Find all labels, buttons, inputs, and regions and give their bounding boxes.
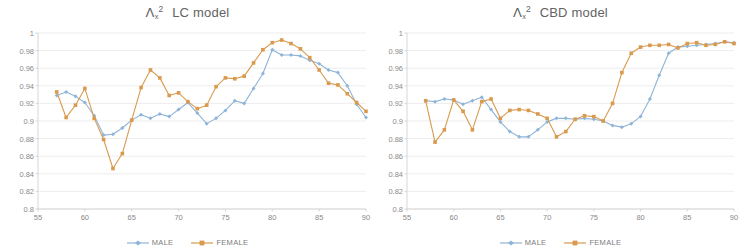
- y-axis-tick-label: 0.98: [388, 46, 403, 55]
- legend-item-female: FEMALE: [191, 238, 248, 247]
- y-axis-tick-label: 0.94: [19, 81, 34, 90]
- data-point-female: [345, 92, 349, 96]
- data-point-female: [611, 102, 615, 106]
- data-point-female: [102, 138, 106, 142]
- data-point-female: [424, 99, 428, 103]
- legend-item-male: MALE: [500, 238, 547, 247]
- data-point-female: [299, 47, 303, 51]
- data-point-female: [676, 46, 680, 50]
- data-point-female: [327, 81, 331, 85]
- data-point-female: [130, 118, 134, 122]
- data-point-female: [723, 40, 727, 44]
- data-point-male: [298, 54, 302, 58]
- y-axis-tick-label: 0.9: [24, 117, 34, 126]
- data-point-female: [289, 42, 293, 46]
- x-axis-tick-label: 90: [362, 213, 370, 222]
- x-axis-tick-label: 90: [730, 213, 738, 222]
- x-axis-tick-label: 80: [268, 213, 276, 222]
- data-point-male: [442, 97, 446, 101]
- data-point-female: [527, 109, 531, 113]
- data-point-male: [158, 112, 162, 116]
- series-line-female: [426, 42, 734, 142]
- y-axis-tick-label: 1: [30, 29, 34, 38]
- data-point-male: [657, 73, 661, 77]
- legend-cbd: MALE FEMALE: [375, 238, 746, 247]
- x-axis-tick-label: 75: [221, 213, 229, 222]
- data-point-female: [83, 87, 87, 91]
- legend-label-male: MALE: [525, 238, 547, 247]
- x-axis-tick-label: 65: [496, 213, 504, 222]
- y-axis-tick-label: 0.86: [19, 152, 34, 161]
- lambda-symbol: Λ: [146, 5, 155, 20]
- data-point-female: [583, 114, 587, 118]
- data-point-male: [289, 53, 293, 57]
- data-point-male: [64, 90, 68, 94]
- chart-title-lc: Λx2LC model: [0, 4, 375, 21]
- y-axis-tick-label: 0.84: [19, 169, 34, 178]
- x-axis-labels-lc: 5560657075808590: [38, 213, 366, 227]
- data-point-female: [452, 98, 456, 102]
- legend-lc: MALE FEMALE: [0, 238, 375, 247]
- title-model-name: LC model: [172, 5, 229, 20]
- series-line-female: [57, 40, 366, 168]
- y-axis-labels-lc: 0.80.820.840.860.880.90.920.940.960.981: [0, 0, 34, 249]
- legend-key-male-icon: [500, 239, 522, 247]
- x-axis-tick-label: 70: [543, 213, 551, 222]
- y-axis-tick-label: 1: [399, 29, 403, 38]
- y-axis-tick-label: 0.82: [19, 187, 34, 196]
- data-point-female: [308, 56, 312, 60]
- x-axis-tick-label: 70: [174, 213, 182, 222]
- data-point-female: [355, 101, 359, 105]
- legend-key-male-icon: [127, 239, 149, 247]
- y-axis-tick-label: 0.88: [388, 134, 403, 143]
- chart-title-cbd: Λx2CBD model: [375, 4, 746, 21]
- data-point-female: [667, 43, 671, 47]
- data-point-female: [177, 91, 181, 95]
- data-point-female: [121, 152, 125, 156]
- data-point-female: [732, 42, 736, 46]
- y-axis-tick-label: 0.96: [388, 64, 403, 73]
- data-point-male: [470, 99, 474, 103]
- data-point-female: [196, 107, 200, 111]
- data-point-female: [433, 140, 437, 144]
- data-point-female: [443, 128, 447, 132]
- legend-key-female-icon: [191, 239, 213, 247]
- data-point-female: [139, 86, 143, 90]
- data-point-female: [714, 43, 718, 47]
- x-axis-tick-label: 65: [128, 213, 136, 222]
- x-axis-tick-label: 60: [450, 213, 458, 222]
- data-point-female: [517, 108, 521, 112]
- legend-label-male: MALE: [152, 238, 174, 247]
- x-axis-tick-label: 60: [81, 213, 89, 222]
- data-point-female: [555, 135, 559, 139]
- data-point-female: [214, 85, 218, 89]
- y-axis-tick-label: 0.82: [388, 187, 403, 196]
- data-point-female: [55, 90, 59, 94]
- data-point-female: [336, 83, 340, 87]
- y-axis-tick-label: 0.86: [388, 152, 403, 161]
- y-axis-tick-label: 0.98: [19, 46, 34, 55]
- data-point-female: [629, 51, 633, 55]
- data-point-female: [489, 97, 493, 101]
- data-point-female: [545, 117, 549, 121]
- x-axis-tick-label: 75: [590, 213, 598, 222]
- data-point-female: [261, 48, 265, 52]
- legend-key-female-icon: [564, 239, 586, 247]
- plot-area-cbd: [407, 33, 734, 209]
- data-point-female: [499, 117, 503, 121]
- chart-panel-lc: Λx2LC model 0.80.820.840.860.880.90.920.…: [0, 0, 375, 249]
- data-point-female: [186, 100, 190, 104]
- data-point-female: [508, 109, 512, 113]
- data-point-female: [205, 103, 209, 107]
- data-point-female: [648, 44, 652, 48]
- data-point-male: [148, 116, 152, 120]
- data-point-female: [317, 68, 321, 72]
- y-axis-tick-label: 0.8: [24, 205, 34, 214]
- data-point-female: [564, 130, 568, 134]
- y-axis-tick-label: 0.8: [393, 205, 403, 214]
- data-point-female: [639, 45, 643, 49]
- data-point-male: [554, 116, 558, 120]
- data-point-female: [657, 44, 661, 48]
- x-axis-tick-label: 85: [683, 213, 691, 222]
- data-point-female: [364, 110, 368, 114]
